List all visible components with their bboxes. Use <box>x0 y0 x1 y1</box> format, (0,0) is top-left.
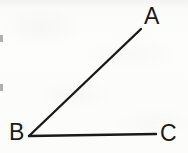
segment-BC <box>29 134 156 136</box>
vertex-label-c: C <box>160 122 177 145</box>
segment-BA <box>29 29 141 136</box>
vertex-label-b: B <box>9 121 24 144</box>
vertex-label-a: A <box>144 5 159 28</box>
geometry-figure: A B C <box>0 0 188 153</box>
